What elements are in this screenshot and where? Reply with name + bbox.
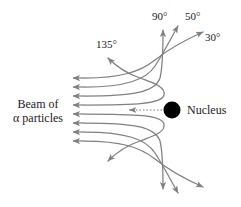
incoming-beam-rays	[73, 78, 85, 141]
trajectory-135deg	[85, 58, 164, 105]
rutherford-scattering-figure: Beam of α particles Nucleus 135° 90° 50°…	[0, 0, 241, 207]
angle-label-30: 30°	[205, 31, 220, 44]
beam-label-line2: α particles	[6, 111, 70, 125]
beam-label: Beam of α particles	[6, 97, 70, 125]
trajectory-135deg-lower	[85, 114, 164, 161]
nucleus-label: Nucleus	[187, 103, 226, 117]
nucleus-dot	[164, 102, 181, 119]
angle-label-50: 50°	[185, 10, 200, 23]
angle-label-90: 90°	[152, 10, 167, 23]
beam-label-line1: Beam of	[6, 97, 70, 111]
angle-label-135: 135°	[96, 38, 117, 51]
trajectory-30deg-lower	[85, 141, 203, 187]
